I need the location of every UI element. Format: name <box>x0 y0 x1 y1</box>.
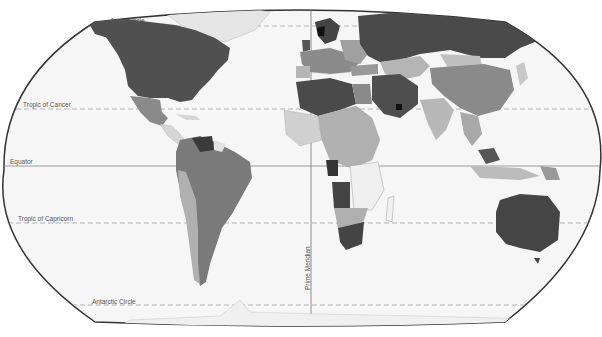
uk <box>302 40 310 52</box>
tropic-of-capricorn-label: Tropic of Capricorn <box>18 215 73 222</box>
new-zealand <box>574 254 586 272</box>
antarctic-circle-label: Antarctic Circle <box>92 298 136 305</box>
angola <box>332 182 350 208</box>
equator-label: Equator <box>10 158 33 165</box>
turkey <box>350 64 378 76</box>
prime-meridian-label: Prime Meridian <box>304 246 311 290</box>
iberia <box>296 66 310 78</box>
australia <box>496 194 560 252</box>
arctic-circle-label: Arctic Circle <box>110 17 145 24</box>
world-map: Arctic Circle Tropic of Cancer Equator T… <box>0 0 602 337</box>
uae <box>396 104 402 110</box>
map-canvas <box>0 0 602 337</box>
gabon-congo <box>326 160 338 176</box>
tropic-of-cancer-label: Tropic of Cancer <box>23 101 71 108</box>
